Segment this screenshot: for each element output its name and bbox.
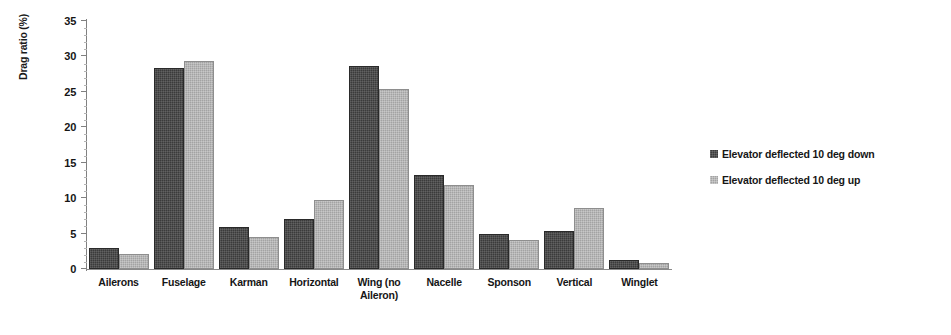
bar-group bbox=[542, 21, 607, 269]
x-tick-label: Nacelle bbox=[412, 276, 477, 289]
y-tick: 25 bbox=[28, 86, 86, 98]
bar-group bbox=[477, 21, 542, 269]
x-tick-label-line: Fuselage bbox=[151, 276, 216, 289]
y-tick-label: 35 bbox=[64, 15, 76, 27]
legend-item: Elevator deflected 10 deg down bbox=[710, 148, 945, 161]
x-tick-label: Karman bbox=[216, 276, 281, 289]
legend-swatch-light-icon bbox=[710, 176, 718, 184]
x-tick-label: Winglet bbox=[607, 276, 672, 289]
bar bbox=[314, 200, 344, 269]
bar-group bbox=[281, 21, 346, 269]
bar-group bbox=[412, 21, 477, 269]
x-tick-label-line: Winglet bbox=[607, 276, 672, 289]
y-axis-title: Drag ratio (%) bbox=[17, 0, 29, 80]
bar bbox=[349, 66, 379, 269]
bar bbox=[219, 227, 249, 270]
y-tick: 0 bbox=[28, 263, 86, 275]
y-tick-label: 10 bbox=[64, 192, 76, 204]
bar-group bbox=[86, 21, 151, 269]
bar-chart-figure: Drag ratio (%) 05101520253035 AileronsFu… bbox=[0, 0, 951, 335]
bar bbox=[609, 260, 639, 269]
y-tick-label: 0 bbox=[70, 263, 76, 275]
x-axis-line bbox=[86, 269, 672, 270]
bar bbox=[184, 61, 214, 269]
x-tick-label: Fuselage bbox=[151, 276, 216, 289]
x-tick-label-line: Wing (no bbox=[346, 276, 411, 289]
bar-group bbox=[607, 21, 672, 269]
x-tick-label-line: Ailerons bbox=[86, 276, 151, 289]
x-tick-label-line: Nacelle bbox=[412, 276, 477, 289]
y-tick-label: 25 bbox=[64, 86, 76, 98]
y-tick: 35 bbox=[28, 15, 86, 27]
bar bbox=[639, 263, 669, 269]
bar bbox=[544, 231, 574, 269]
bar bbox=[444, 185, 474, 269]
bar-group bbox=[151, 21, 216, 269]
x-tick-label-line: Aileron) bbox=[346, 289, 411, 302]
y-tick: 15 bbox=[28, 157, 86, 169]
legend-label: Elevator deflected 10 deg down bbox=[722, 148, 874, 160]
y-tick: 5 bbox=[28, 228, 86, 240]
y-tick-label: 15 bbox=[64, 157, 76, 169]
x-tick-label: Vertical bbox=[542, 276, 607, 289]
bar bbox=[574, 208, 604, 269]
x-tick-label-line: Karman bbox=[216, 276, 281, 289]
bar bbox=[89, 248, 119, 269]
y-tick: 30 bbox=[28, 50, 86, 62]
bar-group bbox=[216, 21, 281, 269]
chart-legend: Elevator deflected 10 deg downElevator d… bbox=[710, 148, 945, 200]
x-tick-label-line: Vertical bbox=[542, 276, 607, 289]
y-tick-label: 30 bbox=[64, 50, 76, 62]
x-tick-label: Wing (noAileron) bbox=[346, 276, 411, 302]
bar bbox=[379, 89, 409, 269]
x-tick-label: Sponson bbox=[477, 276, 542, 289]
bar bbox=[154, 68, 184, 269]
bar bbox=[119, 254, 149, 269]
x-tick-label-line: Horizontal bbox=[281, 276, 346, 289]
bar bbox=[284, 219, 314, 269]
x-tick-label: Ailerons bbox=[86, 276, 151, 289]
legend-item: Elevator deflected 10 deg up bbox=[710, 174, 945, 187]
bar-group bbox=[346, 21, 411, 269]
y-tick-label: 20 bbox=[64, 121, 76, 133]
y-tick-label: 5 bbox=[70, 228, 76, 240]
legend-label: Elevator deflected 10 deg up bbox=[722, 174, 860, 186]
bar bbox=[509, 240, 539, 269]
bar bbox=[479, 234, 509, 269]
legend-swatch-dark-icon bbox=[710, 150, 718, 158]
x-tick-label-line: Sponson bbox=[477, 276, 542, 289]
y-tick: 20 bbox=[28, 121, 86, 133]
bar bbox=[414, 175, 444, 269]
bar bbox=[249, 237, 279, 269]
plot-area bbox=[86, 21, 672, 269]
y-tick: 10 bbox=[28, 192, 86, 204]
x-tick-label: Horizontal bbox=[281, 276, 346, 289]
